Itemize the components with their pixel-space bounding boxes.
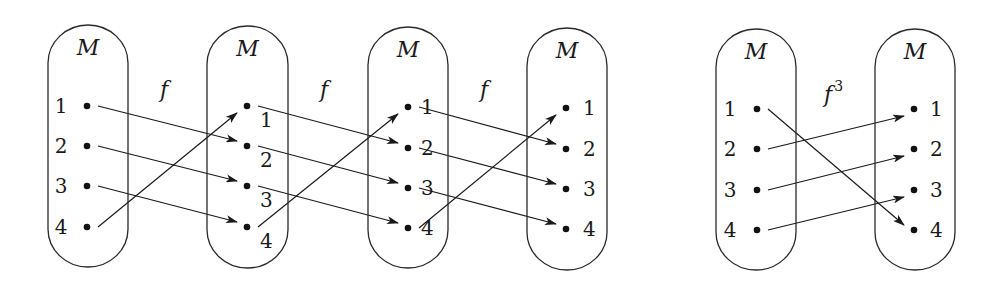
- element-label-3: 3: [260, 188, 273, 212]
- element-label-2: 2: [260, 148, 273, 172]
- set-name-label: M: [235, 36, 259, 61]
- element-label-2: 2: [724, 137, 737, 161]
- element-dot-4: [911, 227, 918, 234]
- set-M4: M1234: [716, 29, 796, 270]
- element-dot-4: [754, 227, 761, 234]
- element-dot-2: [405, 145, 412, 152]
- set-M1: M1234: [207, 26, 288, 268]
- element-dot-4: [244, 224, 251, 231]
- element-dot-2: [563, 146, 570, 153]
- element-dot-4: [563, 226, 570, 233]
- element-dot-3: [563, 186, 570, 193]
- arrow-1-to-2: [258, 106, 398, 143]
- mapping-label-f1: f: [158, 77, 172, 102]
- element-dot-2: [911, 146, 918, 153]
- mapping-f_cubed: [768, 109, 904, 230]
- element-label-2: 2: [583, 137, 596, 161]
- arrow-3-to-4: [258, 186, 398, 223]
- arrow-1-to-2: [98, 106, 237, 141]
- element-label-3: 3: [421, 176, 434, 200]
- mapping-label-f2: f: [318, 77, 332, 102]
- element-dot-1: [84, 103, 91, 110]
- arrow-1-to-4: [768, 109, 904, 225]
- arrow-2-to-3: [419, 148, 556, 184]
- element-dot-1: [754, 106, 761, 113]
- set-M5: M1234: [875, 29, 955, 270]
- element-dot-1: [911, 106, 918, 113]
- element-dot-3: [244, 183, 251, 190]
- element-label-4: 4: [724, 218, 737, 242]
- element-dot-4: [405, 225, 412, 232]
- element-label-1: 1: [583, 96, 596, 120]
- element-label-4: 4: [421, 216, 434, 240]
- element-label-1: 1: [260, 108, 273, 132]
- element-label-3: 3: [583, 177, 596, 201]
- set-name-label: M: [555, 38, 579, 63]
- function-mapping-diagram: M1234M1234M1234M1234M1234M1234 ffff3: [0, 0, 998, 293]
- set-M2: M1234: [368, 27, 448, 268]
- element-label-3: 3: [55, 174, 68, 198]
- arrow-4-to-3: [768, 197, 904, 230]
- arrow-3-to-2: [768, 156, 904, 190]
- set-M0: M1234: [48, 25, 128, 267]
- mapping-label-f_cubed: f3: [822, 78, 843, 107]
- mapping-f2: [258, 106, 398, 227]
- sets-layer: M1234M1234M1234M1234M1234M1234: [48, 25, 955, 270]
- element-label-1: 1: [55, 94, 68, 118]
- arrow-3-to-4: [98, 186, 237, 222]
- arrow-4-to-1: [98, 113, 237, 227]
- element-dot-3: [754, 187, 761, 194]
- arrow-4-to-1: [258, 114, 398, 227]
- arrows-layer: [98, 106, 904, 230]
- set-name-label: M: [903, 39, 927, 64]
- set-name-label: M: [744, 39, 768, 64]
- element-dot-2: [84, 143, 91, 150]
- element-label-4: 4: [55, 215, 68, 239]
- set-name-label: M: [76, 35, 100, 60]
- element-dot-3: [405, 185, 412, 192]
- element-label-4: 4: [260, 229, 273, 253]
- mapping-label-f3: f: [478, 77, 492, 102]
- set-name-label: M: [396, 37, 420, 62]
- element-dot-3: [84, 183, 91, 190]
- element-label-3: 3: [930, 178, 943, 202]
- element-label-1: 1: [421, 95, 434, 119]
- element-label-1: 1: [930, 97, 943, 121]
- arrow-1-to-2: [419, 107, 556, 144]
- map-labels-layer: ffff3: [158, 77, 843, 107]
- element-dot-2: [244, 143, 251, 150]
- element-dot-4: [84, 224, 91, 231]
- element-dot-3: [911, 187, 918, 194]
- element-dot-1: [563, 105, 570, 112]
- element-dot-1: [405, 104, 412, 111]
- element-label-3: 3: [724, 178, 737, 202]
- arrow-2-to-3: [258, 146, 398, 183]
- set-M3: M1234: [527, 28, 607, 270]
- element-label-2: 2: [421, 136, 434, 160]
- element-label-2: 2: [55, 134, 68, 158]
- element-label-4: 4: [930, 218, 943, 242]
- element-label-4: 4: [583, 217, 596, 241]
- arrow-4-to-1: [419, 115, 556, 228]
- arrow-2-to-1: [768, 116, 904, 149]
- arrow-2-to-3: [98, 146, 237, 181]
- element-label-1: 1: [724, 97, 737, 121]
- element-label-2: 2: [930, 137, 943, 161]
- mapping-f3: [419, 107, 556, 228]
- mapping-f1: [98, 106, 237, 227]
- element-dot-2: [754, 146, 761, 153]
- element-dot-1: [244, 103, 251, 110]
- arrow-3-to-4: [419, 188, 556, 224]
